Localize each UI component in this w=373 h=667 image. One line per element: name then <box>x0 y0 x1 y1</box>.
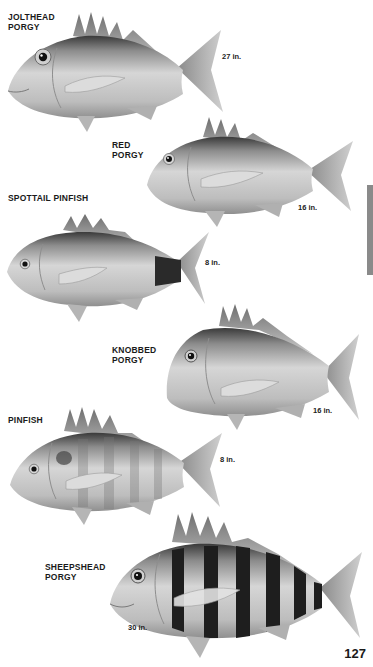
fish-size-sheepshead-porgy: 30 in. <box>128 623 147 632</box>
fish-label-knobbed-porgy: KNOBBED PORGY <box>112 345 156 365</box>
fish-size-knobbed-porgy: 16 in. <box>313 406 332 415</box>
fish-illustration-sheepshead-porgy <box>108 508 366 660</box>
section-thumb-tab <box>367 185 373 275</box>
fish-size-spottail-pinfish: 8 in. <box>205 258 220 267</box>
page-number: 127 <box>344 646 366 661</box>
fish-size-pinfish: 8 in. <box>220 455 235 464</box>
fish-label-sheepshead-porgy: SHEEPSHEAD PORGY <box>45 562 106 582</box>
fish-size-red-porgy: 16 in. <box>298 203 317 212</box>
fish-size-jolthead-porgy: 27 in. <box>222 52 241 61</box>
fish-label-red-porgy: RED PORGY <box>112 140 144 160</box>
fish-label-spottail-pinfish: SPOTTAIL PINFISH <box>8 193 88 203</box>
